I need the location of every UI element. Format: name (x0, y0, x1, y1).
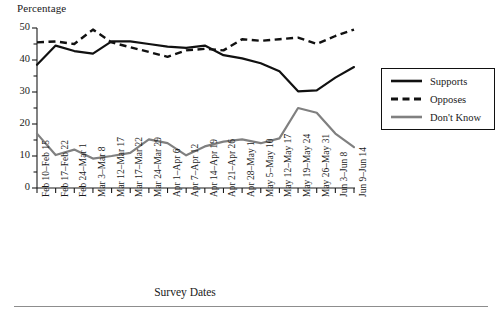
legend-swatch-solid-gray (390, 110, 423, 124)
y-tick-label: 20 (8, 117, 30, 128)
legend-item-dont-know: Don't Know (390, 110, 481, 124)
x-axis-label: Survey Dates (0, 286, 370, 298)
series-line-supports (37, 41, 354, 91)
x-tick-label: Feb 10–Feb 15 (41, 140, 51, 197)
x-tick-label: Apr 7–Apr 12 (190, 144, 200, 197)
x-tick-label: Apr 1–Apr 6 (172, 149, 182, 197)
y-tick-label: 40 (8, 53, 30, 64)
chart-legend: Supports Opposes Don't Know (381, 68, 495, 130)
x-tick-label: May 12–May 17 (283, 134, 293, 197)
legend-swatch-dashed-black (390, 92, 423, 106)
legend-label-supports: Supports (430, 76, 467, 87)
y-axis-label: Percentage (17, 2, 66, 14)
legend-label-dont-know: Don't Know (430, 112, 481, 123)
x-tick-label: May 5–May 10 (265, 139, 275, 197)
legend-swatch-solid-black (390, 74, 423, 88)
x-tick-label: Feb 24–Mar 1 (78, 143, 88, 197)
y-tick-label: 30 (8, 85, 30, 96)
x-tick-label: Jun 3–Jun 8 (339, 152, 349, 197)
x-tick-label: Apr 28–May 1 (246, 141, 256, 197)
x-tick-label: Mar 24–Mar 29 (153, 137, 163, 197)
legend-item-supports: Supports (390, 74, 467, 88)
x-tick-label: May 26–May 31 (321, 134, 331, 197)
x-tick-label: Apr 21–Apr 26 (227, 139, 237, 197)
y-tick-label: 50 (8, 21, 30, 32)
x-tick-label: Jun 9–Jun 14 (358, 147, 368, 197)
x-tick-label: Mar 3–Mar 8 (97, 146, 107, 197)
bottom-divider (14, 306, 488, 307)
legend-item-opposes: Opposes (390, 92, 466, 106)
x-tick-label: May 19–May 24 (302, 134, 312, 197)
y-tick-label: 0 (8, 181, 30, 192)
y-tick-label: 10 (8, 149, 30, 160)
chart-figure: Percentage 01020304050 Feb 10–Feb 15Feb … (0, 0, 502, 316)
legend-label-opposes: Opposes (430, 94, 466, 105)
x-tick-label: Apr 14–Apr 19 (209, 139, 219, 197)
x-tick-label: Mar 17–Mar 22 (134, 137, 144, 197)
x-tick-label: Feb 17–Feb 22 (60, 140, 70, 197)
x-tick-label: Mar 12–Mar 17 (116, 137, 126, 197)
